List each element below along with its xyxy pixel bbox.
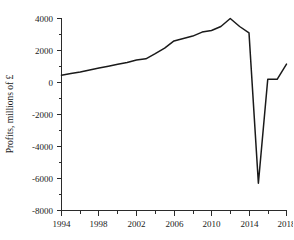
x-tick-label: 2010 — [203, 219, 222, 229]
x-tick-label: 2006 — [166, 219, 185, 229]
y-tick-label: 4000 — [35, 14, 54, 24]
y-tick-label: 0 — [49, 78, 54, 88]
x-tick-label: 1994 — [53, 219, 72, 229]
chart-canvas: Profits, millions of £ 4000 2000 — [0, 0, 293, 240]
x-axis-major-ticks — [62, 211, 287, 216]
y-tick-label: -8000 — [32, 206, 53, 216]
x-tick-label: 1998 — [90, 219, 109, 229]
y-tick-label: -6000 — [32, 174, 53, 184]
y-tick-label: -4000 — [32, 142, 53, 152]
y-axis-label: Profits, millions of £ — [5, 74, 15, 153]
x-tick-label: 2018 — [278, 219, 294, 229]
y-axis-tick-labels: 4000 2000 0 -2000 -4000 -6000 -8000 — [32, 14, 54, 216]
profits-line-chart: Profits, millions of £ 4000 2000 — [0, 0, 293, 240]
y-tick-label: 2000 — [35, 46, 54, 56]
x-tick-label: 2002 — [128, 219, 146, 229]
x-axis-tick-labels: 1994 1998 2002 2006 2010 2014 2018 — [53, 219, 294, 229]
profits-series-line — [62, 19, 287, 184]
x-tick-label: 2014 — [241, 219, 260, 229]
y-axis-major-ticks — [57, 19, 62, 211]
y-tick-label: -2000 — [32, 110, 53, 120]
